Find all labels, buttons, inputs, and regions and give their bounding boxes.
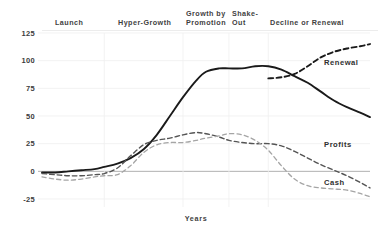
series-label-renewal: Renewal: [324, 58, 358, 67]
stage-label-shake-out: Out: [232, 18, 246, 27]
chart-container: 1251007550250-25 LaunchHyper-GrowthGrowt…: [0, 0, 382, 233]
stage-label-growth-by-promotion: Growth by: [186, 9, 226, 18]
stage-label-decline-or-renewal: Decline or Renewal: [270, 18, 344, 27]
series-paths-group: [42, 44, 370, 197]
gridlines-group: [38, 31, 378, 200]
stage-dividers-group: [104, 33, 268, 207]
y-axis-tick-labels-group: 1251007550250-25: [22, 29, 35, 204]
series-labels-group: RenewalProfitsCash: [324, 58, 358, 187]
stage-label-growth-by-promotion: Promotion: [186, 18, 226, 27]
stage-label-hyper-growth: Hyper-Growth: [118, 18, 171, 27]
y-axis-tick-75: 75: [26, 84, 35, 93]
stage-labels-group: LaunchHyper-GrowthGrowth byPromotionShak…: [55, 9, 344, 27]
stage-label-shake-out: Shake-: [232, 9, 258, 18]
y-axis-tick-50: 50: [26, 112, 35, 121]
series-line-profits: [42, 133, 370, 188]
series-label-profits: Profits: [324, 140, 352, 149]
y-axis-tick-100: 100: [22, 56, 35, 65]
series-line-sales: [42, 66, 370, 173]
y-axis-tick-125: 125: [22, 29, 35, 38]
business-lifecycle-line-chart: 1251007550250-25 LaunchHyper-GrowthGrowt…: [0, 0, 382, 233]
series-label-cash: Cash: [324, 178, 345, 187]
y-axis-tick-25: 25: [26, 139, 35, 148]
y-axis-tick--25: -25: [23, 195, 35, 204]
y-axis-tick-0: 0: [31, 167, 35, 176]
x-axis-title: Years: [185, 214, 208, 223]
stage-label-launch: Launch: [55, 18, 83, 27]
